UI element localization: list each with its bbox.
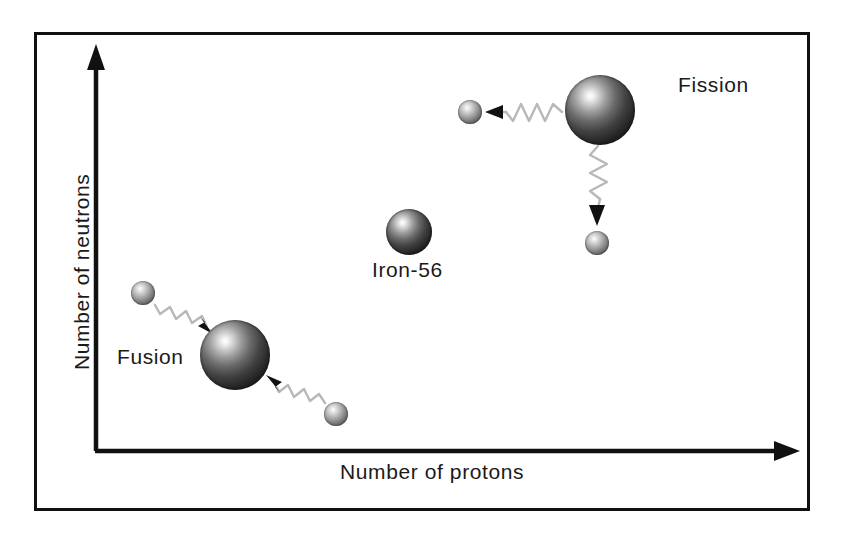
fission-label: Fission [678,73,749,97]
y-axis-label: Number of neutrons [70,174,94,370]
nucleus-fusion-product [200,320,270,390]
x-axis-arrowhead [774,441,800,461]
nucleus-fission-parent [565,75,635,145]
nucleus-fission-fragment-down [585,231,609,255]
nucleus-fission-fragment-left [458,100,482,124]
nucleus-fusion-reactant-lower-right [324,402,348,426]
nucleus-fusion-reactant-upper-left [131,281,155,305]
nucleus-iron-56 [386,209,432,255]
fusion-label: Fusion [117,345,184,369]
diagram-root: Number of neutrons Number of protons Fus… [0,0,847,544]
iron-56-label: Iron-56 [372,258,443,282]
y-axis-arrowhead [87,44,105,70]
x-axis-label: Number of protons [340,460,524,484]
